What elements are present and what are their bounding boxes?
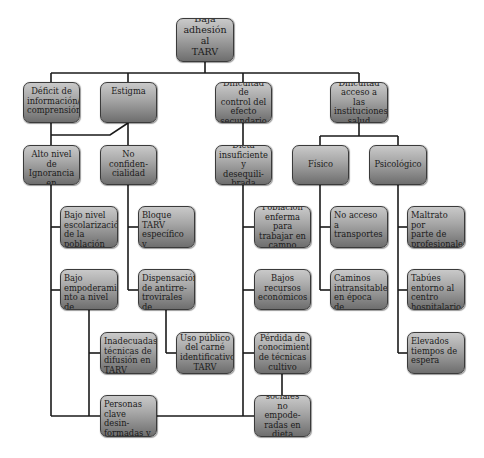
node-uso-publico-carne: Uso público del carné identificativo TAR… — [176, 332, 234, 374]
node-label: Bajo empoderamie nto a nivel de comunida… — [64, 274, 114, 310]
node-label: Pérdida de conocimiento de técnicas cult… — [258, 334, 307, 372]
node-label: Dieta insuficiente y desequili- brada — [219, 145, 268, 185]
node-alto-nivel-ignorancia: Alto nivel de Ignorancia en materia TARV — [23, 145, 80, 185]
node-label: No acceso a transportes — [334, 211, 384, 240]
node-redes-sociales: Redes sociales no empode- radas en dieta… — [254, 395, 311, 437]
node-label: Bajos recursos económicos — [258, 274, 307, 303]
node-label: Físico — [296, 160, 345, 170]
node-label: Uso público del carné identificativo TAR… — [180, 334, 230, 372]
node-label: Dificultad de control del efecto secunda… — [219, 82, 268, 123]
node-bloque-tarv: Bloque TARV específico y diferenciado — [138, 206, 195, 248]
node-label: Dificultad acceso a las instituciones sa… — [334, 82, 384, 123]
node-label: Personas clave desin- formadas y desvinc… — [104, 400, 153, 437]
node-label: Redes sociales no empode- radas en dieta… — [258, 395, 307, 437]
node-dificultad-acceso: Dificultad acceso a las instituciones sa… — [330, 82, 388, 123]
node-poblacion-enferma: Población enferma para trabajar en campo — [254, 206, 311, 248]
node-label: Inadecuadas técnicas de difusión en TARV — [104, 337, 153, 374]
node-label: Déficit de información/ comprensión — [27, 87, 76, 116]
node-label: Maltrato por parte de profesionales sani… — [411, 211, 461, 248]
node-psicologico: Psicológico — [369, 145, 427, 185]
node-personas-clave: Personas clave desin- formadas y desvinc… — [100, 395, 157, 437]
node-label: Psicológico — [373, 160, 423, 170]
node-label: Estigma — [104, 87, 153, 97]
node-label: No confiden- cialidad — [104, 150, 153, 179]
node-fisico: Físico — [292, 145, 349, 185]
node-dieta: Dieta insuficiente y desequili- brada — [215, 145, 272, 185]
node-perdida-conocimiento: Pérdida de conocimiento de técnicas cult… — [254, 332, 311, 374]
node-bajos-recursos: Bajos recursos económicos — [254, 269, 311, 310]
node-dificultad-control: Dificultad de control del efecto secunda… — [215, 82, 272, 123]
node-label: Tabúes entorno al centro hospitalario — [411, 274, 461, 310]
node-bajo-empoderamiento: Bajo empoderamie nto a nivel de comunida… — [60, 269, 118, 310]
node-label: Caminos intransitables en época de lluvi… — [334, 274, 384, 310]
node-no-confidencialidad: No confiden- cialidad — [100, 145, 157, 185]
node-bajo-nivel-escolarizacion: Bajo nivel escolarización de la població… — [60, 206, 118, 248]
node-elevados-tiempos: Elevados tiempos de espera — [407, 332, 465, 374]
node-label: Bloque TARV específico y diferenciado — [142, 211, 191, 248]
node-caminos-intransitables: Caminos intransitables en época de lluvi… — [330, 269, 388, 310]
node-label: Población enferma para trabajar en campo — [258, 206, 307, 248]
node-deficit-informacion: Déficit de información/ comprensión — [23, 82, 80, 123]
root-label: Baja adhesión al TARV para — [180, 18, 230, 62]
node-maltrato: Maltrato por parte de profesionales sani… — [407, 206, 465, 248]
node-inadecuadas-tecnicas: Inadecuadas técnicas de difusión en TARV — [100, 332, 157, 374]
node-dispensacion: Dispensación de antirre- trovirales de f… — [138, 269, 195, 310]
node-label: Bajo nivel escolarización de la població… — [64, 211, 114, 248]
node-estigma: Estigma — [100, 82, 157, 123]
node-no-acceso-transportes: No acceso a transportes — [330, 206, 388, 248]
node-tabues: Tabúes entorno al centro hospitalario — [407, 269, 465, 310]
root-node: Baja adhesión al TARV para — [176, 18, 234, 62]
node-label: Elevados tiempos de espera — [411, 337, 461, 366]
node-label: Alto nivel de Ignorancia en materia TARV — [27, 150, 76, 185]
problem-tree-diagram: Baja adhesión al TARV para Déficit de in… — [0, 0, 484, 458]
node-label: Dispensación de antirre- trovirales de f… — [142, 274, 191, 310]
